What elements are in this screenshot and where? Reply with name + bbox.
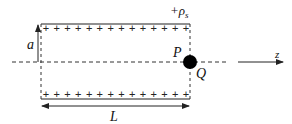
plus-charge: + [172,88,178,100]
plus-charge: + [161,88,167,100]
plus-charge: + [75,22,81,34]
plus-charge: + [75,88,81,100]
z-axis-label: z [274,48,280,60]
plus-charge: + [43,22,49,34]
surface-charge-subscript: s [185,10,189,20]
plus-charge: + [183,22,189,34]
plus-charge: + [54,22,60,34]
surface-charge-label: +ρs [170,3,189,20]
plus-charge: + [107,88,113,100]
length-label: L [109,109,118,124]
plus-charge: + [140,22,146,34]
plus-charge: + [150,88,156,100]
plus-charge: + [118,88,124,100]
plus-charge: + [64,88,70,100]
surface-charge-symbol: +ρ [170,3,185,18]
plus-charge: + [86,22,92,34]
point-p-label: P [172,45,182,60]
plus-charge: + [97,88,103,100]
plus-charge: + [64,22,70,34]
plus-charge: + [97,22,103,34]
plus-charge: + [54,88,60,100]
plus-charge: + [172,22,178,34]
plus-charge: + [161,22,167,34]
plus-charge: + [183,88,189,100]
plus-charge: + [86,88,92,100]
plus-charge: + [129,88,135,100]
radius-label: a [27,37,34,52]
plus-charge: + [140,88,146,100]
plus-charge: + [107,22,113,34]
cylinder-charge-diagram: ++++++++++++++ ++++++++++++++ a +ρs P Q … [0,0,292,124]
point-q-label: Q [196,66,206,81]
plus-charge: + [129,22,135,34]
plus-charge: + [118,22,124,34]
plus-charge: + [43,88,49,100]
bottom-plus-charges: ++++++++++++++ [43,88,189,100]
plus-charge: + [150,22,156,34]
point-dot [183,55,197,69]
